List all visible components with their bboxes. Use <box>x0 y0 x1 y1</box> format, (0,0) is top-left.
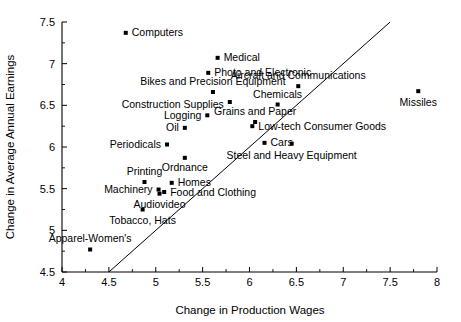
y-tick-label: 7.5 <box>40 16 55 28</box>
x-tick-label: 6.5 <box>289 276 304 288</box>
data-point-marker <box>183 126 187 130</box>
data-point-marker <box>416 89 420 93</box>
data-point-label: Food and Clothing <box>170 186 256 198</box>
x-tick-label: 7 <box>340 276 346 288</box>
data-point-marker <box>124 31 128 35</box>
x-tick-label: 5.5 <box>195 276 210 288</box>
x-tick-label: 7.5 <box>382 276 397 288</box>
data-point-marker <box>158 192 162 196</box>
data-point-label: Oil <box>166 121 179 133</box>
x-tick-label: 5 <box>153 276 159 288</box>
data-point-marker <box>88 248 92 252</box>
data-point-marker <box>216 56 220 60</box>
data-point-marker <box>162 190 166 194</box>
data-point-label: Medical <box>224 51 260 63</box>
x-tick-label: 4.5 <box>101 276 116 288</box>
data-point-marker <box>157 188 161 192</box>
point-labels: ComputersMedicalPhoto and ElectronicBike… <box>49 26 437 243</box>
data-point-label: Computers <box>132 26 183 38</box>
y-tick-label: 6.5 <box>40 99 55 111</box>
data-point-label: Ordnance <box>162 161 208 173</box>
y-tick-label: 5.5 <box>40 183 55 195</box>
data-point-label: Audiovideo <box>134 198 186 210</box>
data-point-marker <box>253 120 257 124</box>
data-point-label: Low-tech Consumer Goods <box>258 120 386 132</box>
x-tick-label: 8 <box>434 276 440 288</box>
scatter-chart: ComputersMedicalPhoto and ElectronicBike… <box>0 0 461 322</box>
y-tick-label: 7 <box>49 58 55 70</box>
data-point-label: Steel and Heavy Equipment <box>227 149 357 161</box>
data-point-label: Tobacco, Hats <box>109 214 176 226</box>
data-point-marker <box>205 113 209 117</box>
y-tick-label: 4.5 <box>40 266 55 278</box>
x-axis-title: Change in Production Wages <box>175 304 324 316</box>
data-point-label: Aircraft and Communications <box>231 69 366 81</box>
data-point-marker <box>263 141 267 145</box>
data-point-marker <box>165 143 169 147</box>
data-point-marker <box>183 156 187 160</box>
data-point-label: Printing <box>127 165 163 177</box>
data-point-marker <box>250 124 254 128</box>
data-point-label: Periodicals <box>110 138 161 150</box>
y-tick-label: 6 <box>49 141 55 153</box>
x-tick-label: 6 <box>246 276 252 288</box>
data-point-label: Missiles <box>400 96 437 108</box>
data-point-label: Apparel-Women's <box>49 232 132 244</box>
y-axis-title: Change in Average Annual Earnings <box>4 54 16 239</box>
data-point-label: Machinery <box>104 183 153 195</box>
plot-canvas: ComputersMedicalPhoto and ElectronicBike… <box>0 0 461 322</box>
y-tick-label: 5 <box>49 224 55 236</box>
data-point-marker <box>228 100 232 104</box>
data-point-marker <box>211 90 215 94</box>
data-point-label: Logging <box>164 109 202 121</box>
data-point-label: Cars <box>271 136 293 148</box>
data-point-marker <box>170 181 174 185</box>
data-point-label: Chemicals <box>253 88 302 100</box>
data-point-label: Grains and Paper <box>214 105 297 117</box>
x-tick-label: 4 <box>59 276 65 288</box>
